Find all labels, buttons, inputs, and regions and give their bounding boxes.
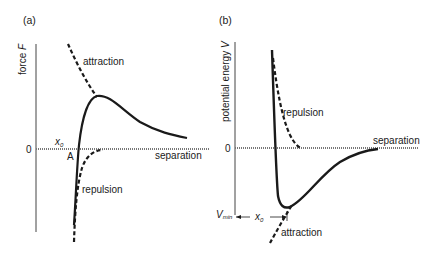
panel-b-attraction-label: attraction [281,227,322,238]
panel-b-potential-energy: (b) potential energy V 0 repulsion attra… [216,14,420,243]
panel-b-label: (b) [219,14,232,26]
panel-a-x0-label: x0 [54,136,64,148]
panel-a-attraction-curve [68,44,97,97]
panel-a-force: (a) force F 0 x0 A attraction repulsion … [17,14,210,242]
panel-a-zero-label: 0 [26,144,32,155]
panel-a-repulsion-label: repulsion [82,184,123,195]
panel-a-y-axis-label: force F [17,43,28,75]
panel-b-zero-label: 0 [225,143,231,154]
panel-b-x-axis-label: separation [373,135,420,146]
panel-b-repulsion-label: repulsion [283,107,324,118]
panel-a-attraction-label: attraction [83,56,124,67]
panel-b-repulsion-curve [273,58,301,148]
panel-b-y-axis-label: potential energy V [220,40,231,122]
panel-b-vmin-label: Vmin [216,209,233,220]
panel-a-point-a-label: A [67,151,74,162]
force-potential-diagram: (a) force F 0 x0 A attraction repulsion … [0,0,437,255]
panel-b-x0-label: x0 [254,211,264,223]
panel-a-label: (a) [23,14,36,26]
panel-a-x-axis-label: separation [155,150,202,161]
